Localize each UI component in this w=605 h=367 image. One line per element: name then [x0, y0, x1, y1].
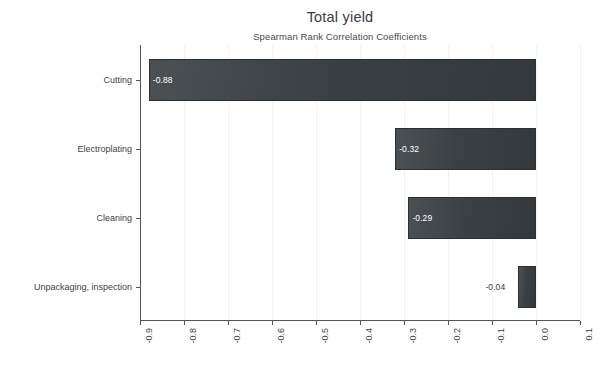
- bar-value-label: -0.32: [399, 144, 419, 154]
- x-axis: -0.9-0.8-0.7-0.6-0.5-0.4-0.3-0.2-0.10.00…: [140, 321, 580, 367]
- x-tick-mark-7: [448, 321, 449, 325]
- plot-area: -0.88-0.32-0.29-0.04: [140, 45, 580, 321]
- y-tick-label-0: Cutting: [103, 75, 132, 85]
- y-tick-mark-3: [136, 287, 140, 288]
- x-tick-label-5: -0.4: [364, 328, 374, 344]
- bar: [518, 266, 536, 308]
- y-tick-label-1: Electroplating: [77, 144, 132, 154]
- y-axis-spine: [140, 45, 141, 321]
- chart-subtitle: Spearman Rank Correlation Coefficients: [140, 31, 540, 42]
- x-tick-label-2: -0.7: [232, 328, 242, 344]
- x-tick-label-1: -0.8: [188, 328, 198, 344]
- bar-value-label: -0.04: [485, 282, 505, 292]
- x-tick-label-7: -0.2: [452, 328, 462, 344]
- y-tick-label-3: Unpackaging, inspection: [34, 282, 132, 292]
- y-tick-mark-0: [136, 80, 140, 81]
- y-tick-mark-2: [136, 218, 140, 219]
- x-tick-mark-4: [316, 321, 317, 325]
- gridline-x-9: [536, 45, 537, 321]
- x-tick-mark-5: [360, 321, 361, 325]
- x-tick-mark-9: [536, 321, 537, 325]
- x-tick-mark-10: [580, 321, 581, 325]
- x-tick-mark-3: [272, 321, 273, 325]
- y-tick-mark-1: [136, 149, 140, 150]
- x-tick-label-8: -0.1: [496, 328, 506, 344]
- chart-title: Total yield: [140, 9, 540, 25]
- x-tick-label-6: -0.3: [408, 328, 418, 344]
- bar-value-label: -0.29: [412, 213, 432, 223]
- bar: [149, 59, 536, 101]
- x-tick-label-4: -0.5: [320, 328, 330, 344]
- x-tick-mark-1: [184, 321, 185, 325]
- bar-value-label: -0.88: [153, 75, 173, 85]
- x-tick-mark-2: [228, 321, 229, 325]
- x-tick-mark-8: [492, 321, 493, 325]
- chart-figure: Total yield Spearman Rank Correlation Co…: [0, 0, 605, 367]
- x-tick-label-9: 0.0: [540, 328, 550, 341]
- x-tick-label-0: -0.9: [144, 328, 154, 344]
- y-axis-labels: CuttingElectroplatingCleaningUnpackaging…: [0, 45, 132, 321]
- x-tick-mark-0: [140, 321, 141, 325]
- gridline-x-10: [580, 45, 581, 321]
- x-tick-mark-6: [404, 321, 405, 325]
- x-tick-label-3: -0.6: [276, 328, 286, 344]
- y-tick-label-2: Cleaning: [96, 213, 132, 223]
- x-tick-label-10: 0.1: [584, 328, 594, 341]
